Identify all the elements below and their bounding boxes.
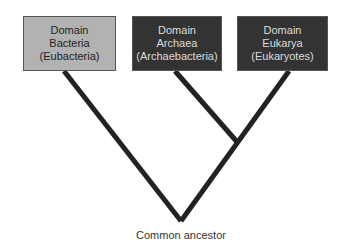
- common-ancestor-label: Common ancestor: [0, 229, 344, 241]
- node-eukarya-line3: (Eukaryotes): [251, 50, 313, 63]
- node-eukarya-line2: Eukarya: [262, 37, 302, 50]
- node-bacteria-line3: (Eubacteria): [40, 50, 100, 63]
- branch-bacteria: [64, 71, 181, 221]
- node-eukarya-line1: Domain: [264, 24, 302, 37]
- node-archaea-line3: (Archaebacteria): [136, 50, 217, 63]
- node-archaea-line2: Archaea: [157, 37, 198, 50]
- node-domain-eukarya: Domain Eukarya (Eukaryotes): [237, 16, 328, 71]
- node-domain-archaea: Domain Archaea (Archaebacteria): [132, 16, 222, 71]
- branch-archaea: [175, 71, 238, 143]
- node-bacteria-line1: Domain: [51, 24, 89, 37]
- node-domain-bacteria: Domain Bacteria (Eubacteria): [23, 16, 116, 71]
- node-bacteria-line2: Bacteria: [49, 37, 89, 50]
- node-archaea-line1: Domain: [158, 24, 196, 37]
